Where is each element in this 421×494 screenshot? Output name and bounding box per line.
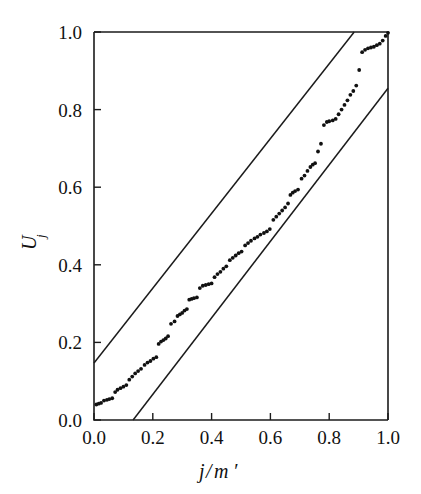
data-point-0-77 [313,161,317,165]
data-point-0-12 [127,378,131,382]
x-axis-title: j / m ′ [196,460,238,483]
figure-container: 0.00.20.40.60.81.0 0.00.20.40.60.81.0 U … [0,0,421,494]
data-point-0-26 [166,334,170,338]
data-point-0-58 [259,233,263,237]
y-tick-label-1: 0.2 [58,332,82,353]
scatter-plot: 0.00.20.40.60.81.0 0.00.20.40.60.81.0 U … [0,0,421,494]
data-point-0-80 [322,123,326,127]
data-point-0-92 [357,68,361,72]
data-point-0-45 [219,270,223,274]
data-point-0-78 [316,150,320,154]
data-point-0-73 [303,174,307,178]
axis-spine-top-right [94,32,388,420]
data-point-0-79 [319,142,323,146]
data-point-0-16 [139,367,143,371]
data-point-0-85 [337,112,341,116]
data-point-0-86 [340,108,344,112]
data-point-cloud [94,31,389,407]
data-point-0-67 [286,202,290,206]
upper-bound-line [94,32,354,363]
data-point-0-64 [277,212,281,216]
axes-frame [94,32,388,420]
data-point-0-88 [346,98,350,102]
data-point-0-71 [296,188,300,192]
lower-bound-line [133,88,388,420]
data-point-0-84 [334,117,338,121]
data-point-0-65 [280,209,284,213]
tick-marks [94,32,388,420]
data-point-0-82 [327,119,331,123]
data-point-0-37 [195,295,199,299]
y-tick-label-2: 0.4 [58,255,82,276]
data-point-0-90 [351,89,355,93]
x-tick-label-5: 1.0 [376,427,400,448]
data-point-0-11 [124,383,128,387]
bound-lines [94,32,388,420]
y-tick-label-4: 0.8 [58,100,82,121]
data-point-0-87 [343,103,347,107]
x-axis-title-numerator: j [196,460,205,483]
data-point-0-28 [173,320,177,324]
x-tick-label-0: 0.0 [82,427,106,448]
data-point-0-43 [213,275,217,279]
y-tick-labels: 0.00.20.40.60.81.0 [58,22,82,431]
data-point-0-63 [274,215,278,219]
data-point-0-13 [130,375,134,379]
y-axis-title: U j [18,234,48,250]
data-point-0-100 [381,39,385,43]
data-point-0-52 [240,250,244,254]
data-point-0-62 [271,218,275,222]
data-point-0-33 [185,307,189,311]
data-point-0-91 [354,84,358,88]
data-point-0-55 [249,239,253,243]
data-point-0-42 [210,282,214,286]
x-tick-label-2: 0.4 [200,427,224,448]
data-point-0-72 [300,177,304,181]
x-axis-title-denominator: m [214,460,228,482]
data-point-0-102 [386,31,390,35]
x-axis-title-slash: / [205,460,214,482]
data-point-0-47 [224,264,228,268]
y-tick-label-3: 0.6 [58,177,82,198]
y-tick-label-0: 0.0 [58,410,82,431]
data-point-0-27 [169,322,173,326]
data-point-0-101 [384,34,388,38]
data-point-0-99 [378,42,382,46]
y-tick-label-5: 1.0 [58,22,82,43]
x-tick-labels: 0.00.20.40.60.81.0 [82,427,400,448]
x-tick-label-1: 0.2 [141,427,165,448]
data-point-0-21 [154,355,158,359]
x-tick-label-4: 0.8 [317,427,341,448]
data-point-0-61 [268,227,272,231]
data-point-0-6 [110,396,114,400]
x-axis-title-prime: ′ [233,460,238,482]
data-point-0-74 [306,169,310,173]
data-point-0-89 [348,93,352,97]
data-point-0-66 [283,205,287,209]
axis-spine-left-bottom [94,32,388,420]
x-tick-label-3: 0.6 [259,427,283,448]
